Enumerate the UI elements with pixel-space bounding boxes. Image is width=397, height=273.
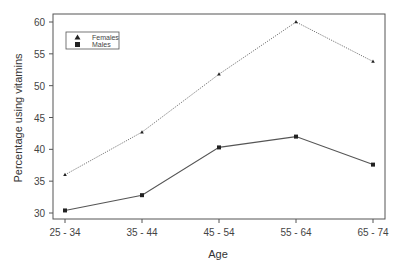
- legend-label-males: Males: [92, 41, 111, 48]
- square-marker-icon: [371, 163, 375, 167]
- square-marker-icon: [63, 208, 67, 212]
- y-tick-label: 40: [34, 144, 46, 155]
- y-tick-label: 45: [34, 113, 46, 124]
- square-marker-icon: [140, 193, 144, 197]
- y-axis-title: Percentage using vitamins: [12, 53, 24, 183]
- x-tick-label: 45 - 54: [203, 227, 235, 238]
- y-tick-label: 50: [34, 81, 46, 92]
- y-tick-label: 60: [34, 17, 46, 28]
- x-tick-label: 35 - 44: [126, 227, 158, 238]
- x-axis-title: Age: [208, 248, 228, 260]
- square-marker-icon: [217, 145, 221, 149]
- y-tick-label: 55: [34, 49, 46, 60]
- legend: Females Males: [66, 32, 119, 49]
- legend-label-females: Females: [92, 34, 119, 41]
- square-marker-icon: [294, 135, 298, 139]
- y-tick-label: 35: [34, 176, 46, 187]
- line-chart: 30354045505560 25 - 3435 - 4445 - 5455 -…: [0, 0, 397, 273]
- triangle-marker-icon: [294, 20, 298, 23]
- y-tick-label: 30: [34, 208, 46, 219]
- x-axis: 25 - 3435 - 4445 - 5455 - 6465 - 74: [49, 219, 389, 238]
- x-tick-label: 65 - 74: [357, 227, 389, 238]
- x-tick-label: 25 - 34: [49, 227, 81, 238]
- triangle-marker-icon: [63, 173, 67, 176]
- x-tick-label: 55 - 64: [280, 227, 312, 238]
- square-marker-icon: [75, 42, 80, 47]
- y-axis: 30354045505560: [34, 17, 53, 219]
